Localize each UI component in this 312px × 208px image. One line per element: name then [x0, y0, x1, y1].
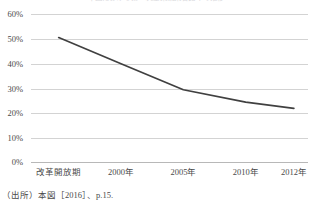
- figure-container: 中国における第一次産業就業者比率の推移 60% 50% 40% 30% 20% …: [0, 0, 312, 208]
- y-tick-label-20: 20%: [0, 109, 23, 118]
- x-tick-label-2010: 2010年: [233, 166, 259, 179]
- plot-area: 60% 50% 40% 30% 20% 10% 0%: [31, 14, 308, 163]
- series-line-chart: [31, 14, 308, 163]
- chart-title: 中国における第一次産業就業者比率の推移: [0, 0, 312, 2]
- x-axis: 改革開放期 2000年 2005年 2010年 2012年: [31, 166, 308, 182]
- y-tick-label-50: 50%: [0, 35, 23, 44]
- x-tick-label-2000: 2000年: [108, 166, 134, 179]
- x-tick-label-2005: 2005年: [170, 166, 196, 179]
- x-tick-label-2012: 2012年: [281, 166, 307, 179]
- y-tick-label-60: 60%: [0, 10, 23, 19]
- series-line-ratio: [59, 38, 294, 109]
- y-tick-label-40: 40%: [0, 60, 23, 69]
- y-tick-label-30: 30%: [0, 85, 23, 94]
- x-tick-label-reform: 改革開放期: [36, 166, 81, 179]
- y-tick-label-0: 0%: [0, 158, 23, 167]
- y-tick-label-10: 10%: [0, 134, 23, 143]
- source-note: （出所）本図［2016］、p.15.: [2, 189, 113, 201]
